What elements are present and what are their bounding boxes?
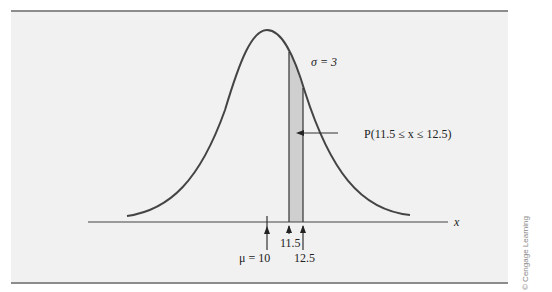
- tick-11-5-arrow-head-icon: [286, 225, 292, 233]
- x-axis-label: x: [453, 215, 460, 229]
- normal-distribution-figure: σ = 3 P(11.5 ≤ x ≤ 12.5) x 11.5 12.5 μ =…: [0, 0, 552, 292]
- mean-label: μ = 10: [239, 251, 270, 265]
- copyright-credit: © Cengage Learning: [521, 210, 533, 290]
- tick-12-5-arrow-head-icon: [300, 225, 306, 233]
- normal-curve: [127, 30, 410, 216]
- mean-arrow-head-icon: [264, 226, 270, 234]
- tick-11-5-label: 11.5: [280, 236, 301, 250]
- tick-12-5-label: 12.5: [294, 251, 315, 265]
- sigma-label: σ = 3: [311, 55, 337, 69]
- probability-label: P(11.5 ≤ x ≤ 12.5): [364, 127, 451, 141]
